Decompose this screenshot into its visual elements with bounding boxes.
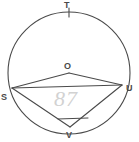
point-label-V: V (66, 131, 72, 140)
geometry-drawing-canvas (0, 0, 139, 142)
circle-geometry-diagram: T O S U V 87 (0, 0, 139, 142)
point-label-U: U (126, 84, 133, 93)
angle-mark-at-V (58, 118, 88, 119)
segment-radius-OU (69, 73, 122, 85)
point-label-O: O (64, 62, 71, 71)
point-label-T: T (64, 1, 70, 10)
handwritten-annotation-87: 87 (54, 88, 78, 110)
point-label-S: S (1, 93, 7, 102)
